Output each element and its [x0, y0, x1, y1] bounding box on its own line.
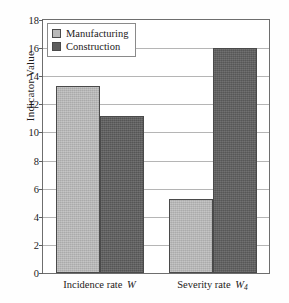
- plot-area: 024681012141618 Manufacturing Constructi…: [42, 19, 270, 274]
- y-tick-label: 10: [29, 127, 40, 138]
- legend-item-manufacturing: Manufacturing: [52, 27, 128, 40]
- y-tick-label: 6: [34, 183, 39, 194]
- legend-label-construction: Construction: [66, 40, 120, 53]
- legend: Manufacturing Construction: [47, 23, 136, 57]
- bar-manufacturing: [56, 86, 100, 273]
- bar-construction: [100, 116, 144, 273]
- y-tick-mark: [39, 273, 43, 274]
- y-tick-label: 16: [29, 43, 40, 54]
- y-tick-label: 0: [34, 268, 39, 279]
- legend-item-construction: Construction: [52, 40, 128, 53]
- y-tick-label: 4: [34, 211, 39, 222]
- bar-construction: [213, 48, 257, 273]
- legend-swatch-icon-manufacturing: [52, 29, 61, 38]
- y-tick-label: 18: [29, 15, 40, 26]
- x-tick-label: Incidence rate W: [63, 279, 136, 290]
- legend-swatch-icon-construction: [52, 42, 61, 51]
- bar-manufacturing: [169, 199, 213, 273]
- legend-label-manufacturing: Manufacturing: [66, 27, 128, 40]
- bar-group-container: [43, 20, 269, 273]
- y-tick-label: 8: [34, 155, 39, 166]
- y-tick-label: 12: [29, 99, 40, 110]
- y-tick-label: 14: [29, 71, 40, 82]
- x-tick-label: Severity rate W4: [177, 279, 247, 292]
- bar-chart-figure: Indicator Value 024681012141618 Manufact…: [0, 0, 289, 303]
- y-tick-label: 2: [34, 239, 39, 250]
